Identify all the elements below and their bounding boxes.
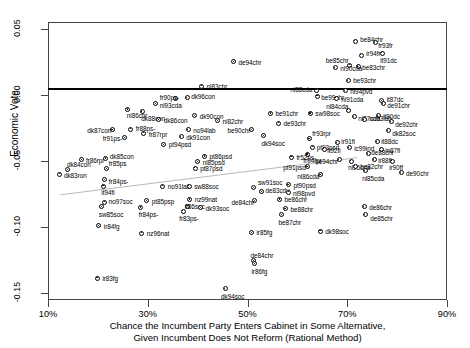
data-point	[334, 96, 339, 101]
y-tick	[41, 227, 48, 228]
data-point	[373, 40, 378, 45]
data-point-label: ir94fr	[366, 50, 380, 57]
data-point-label: fr91ps-	[103, 135, 123, 142]
data-point	[185, 95, 190, 100]
data-point	[193, 166, 198, 171]
data-point-label: fr93rpr	[312, 130, 330, 137]
data-point-label: fr52ps-	[296, 154, 316, 161]
data-point-label: fr85ps	[109, 160, 126, 167]
x-axis-title-line2: Given Incumbent Does Not Reform (Rationa…	[48, 332, 447, 344]
data-point	[362, 204, 367, 209]
data-point-label: nl83chr	[207, 83, 228, 90]
data-point	[289, 155, 294, 160]
data-point-label: pt90psd	[293, 182, 315, 189]
y-axis-title: Economic Vote	[9, 76, 20, 172]
data-point	[307, 136, 312, 141]
data-point	[349, 159, 354, 164]
data-point-label: pt91psd	[283, 164, 305, 171]
x-tick	[347, 300, 348, 307]
x-tick	[148, 300, 149, 307]
x-tick-label: 50%	[225, 309, 271, 319]
data-point-label: pt94psd	[169, 141, 191, 148]
data-point	[314, 88, 319, 93]
data-point	[381, 101, 386, 106]
data-point	[352, 114, 357, 119]
data-point-label: dk98soc	[325, 228, 348, 235]
data-point-label: de88chr	[371, 149, 394, 156]
data-point-label: be85chr	[326, 57, 349, 64]
data-point-label: be90chr	[227, 127, 250, 134]
data-point-label: dk91con	[186, 134, 210, 141]
data-point-label: fr84ps-	[109, 178, 129, 185]
data-point	[279, 212, 284, 217]
data-point-label: nl82chr	[223, 118, 244, 125]
data-point-label: be91chr	[275, 110, 298, 117]
y-tick	[41, 161, 48, 162]
data-point-label: nl88cda	[290, 86, 312, 93]
data-point	[359, 53, 364, 58]
data-point-label: fr93fr	[378, 42, 393, 49]
data-point-label: de94chr	[239, 59, 262, 66]
x-tick-label: 90%	[424, 309, 470, 319]
data-point-label: nl90cda	[340, 65, 362, 72]
zero-reference-line	[48, 88, 447, 90]
data-point	[187, 184, 192, 189]
data-point-label: de85chr	[370, 215, 393, 222]
data-point-label: dk94soc	[221, 293, 244, 300]
data-point-label: ir86fg	[251, 268, 267, 275]
data-point	[259, 189, 264, 194]
data-point-label: nl84cda	[326, 103, 348, 110]
data-point	[181, 209, 186, 214]
y-tick-label: -0.15	[12, 275, 22, 309]
data-point-label: sw98soc	[315, 110, 340, 117]
data-point	[276, 121, 281, 126]
data-point	[223, 286, 228, 291]
data-point-label: ir84fg	[104, 223, 120, 230]
data-point-label: de93chr	[283, 120, 306, 127]
data-point	[353, 164, 358, 169]
data-point-label: de84chr	[231, 199, 254, 206]
data-point	[141, 131, 146, 136]
data-point	[249, 230, 254, 235]
x-tick-label: 30%	[125, 309, 171, 319]
data-point-label: dk84con	[67, 161, 91, 168]
y-tick	[41, 293, 48, 294]
data-point-label: be86chr	[284, 196, 307, 203]
data-point-label: de92chr	[395, 121, 418, 128]
data-point-label: dk86con	[164, 117, 188, 124]
data-point	[366, 151, 371, 156]
data-point-label: dk96con	[191, 93, 215, 100]
data-point	[322, 147, 327, 152]
data-point-label: ir91fi	[341, 138, 355, 145]
data-point	[199, 84, 204, 89]
data-point	[333, 65, 338, 70]
data-point-label: nl85cda	[362, 175, 384, 182]
y-tick-label: -0.10	[12, 209, 22, 243]
x-axis-title: Chance the Incumbent Party Enters Cabine…	[48, 320, 447, 344]
data-point-label: be93chr	[353, 77, 376, 84]
data-point-label: de84chr	[250, 252, 273, 259]
data-point-label: sw91soc	[258, 179, 283, 186]
data-point	[386, 128, 391, 133]
y-tick-label: 0.05	[12, 11, 22, 45]
data-point	[353, 39, 358, 44]
x-axis-title-line1: Chance the Incumbent Party Enters Cabine…	[48, 320, 447, 332]
data-point-label: dk88con	[141, 115, 165, 122]
data-point-label: dk83ron	[64, 172, 87, 179]
data-point-label: it94fi	[101, 189, 114, 196]
x-tick	[248, 300, 249, 307]
x-tick	[48, 300, 49, 307]
data-point-label: dk94soc	[261, 140, 284, 147]
data-point-label: be88chr	[290, 206, 313, 213]
data-point-label: be94chr	[315, 158, 338, 165]
data-point-label: nl93cda	[160, 102, 182, 109]
data-point-label: be87chr	[278, 219, 301, 226]
data-point-label: pt85psp	[152, 198, 174, 205]
data-point	[375, 139, 380, 144]
data-point	[318, 229, 323, 234]
data-point-label: pt87psd	[200, 165, 222, 172]
data-point	[380, 51, 385, 56]
data-point-label: be83chr	[362, 64, 385, 71]
x-tick-label: 70%	[324, 309, 370, 319]
data-point-label: ir85fg	[256, 229, 272, 236]
